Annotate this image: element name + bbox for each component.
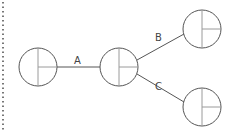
node-middle — [100, 48, 138, 86]
node-root — [19, 48, 57, 86]
tree-diagram: A B C — [0, 0, 235, 131]
node-bottom-right — [183, 88, 221, 126]
edge-label-a: A — [74, 55, 81, 66]
edge-label-c: C — [155, 81, 162, 92]
node-top-right — [183, 10, 221, 48]
edge-label-b: B — [155, 32, 162, 43]
